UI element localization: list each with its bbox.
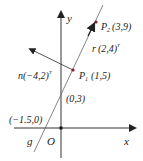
point-p1 [71, 68, 74, 71]
p1-label: P1(1,5) [78, 70, 111, 82]
x-axis-label: x [123, 135, 129, 147]
coordinate-diagram: y x O g P2(3,9) r(2,4)T n(−4,2)T P1(1,5)… [0, 0, 143, 161]
origin-dot [60, 127, 63, 130]
y-intercept-label: (0,3) [66, 93, 86, 105]
y-axis-label: y [66, 12, 72, 24]
vector-r-arrow [88, 24, 94, 36]
r-vector-label: r(2,4)T [92, 43, 121, 55]
origin-label: O [47, 135, 55, 147]
x-intercept-label: (−1.5,0) [9, 114, 43, 126]
point-p2 [94, 20, 97, 23]
vector-n-arrow [30, 49, 73, 70]
n-vector-label: n(−4,2)T [18, 70, 53, 82]
line-g-label: g [27, 135, 33, 147]
p2-label: P2(3,9) [100, 21, 132, 33]
